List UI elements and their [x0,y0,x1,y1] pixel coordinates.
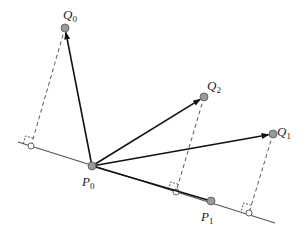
vectors [66,32,269,166]
point-P0 [88,162,96,170]
vector-p0-Q0 [66,32,92,166]
segment-p0-p1-line [92,166,211,201]
point-Q2 [200,93,208,101]
label-Q0: Q0 [63,7,77,24]
segment-p0-p1 [92,166,211,201]
point-Q1 [269,130,277,138]
foot-point [28,143,34,149]
projection-lines [23,28,273,216]
label-Q1: Q1 [277,124,291,141]
point-Q0 [61,24,69,32]
foot-point [246,210,252,216]
label-Q2: Q2 [207,78,221,95]
projection-Q0 [31,28,65,146]
label-P0: P0 [81,174,95,191]
projection-diagram: P0P1Q0Q2Q1 [0,0,307,232]
projection-Q1 [249,134,273,213]
label-P1: P1 [200,209,213,226]
point-P1 [207,197,215,205]
points [61,24,277,205]
